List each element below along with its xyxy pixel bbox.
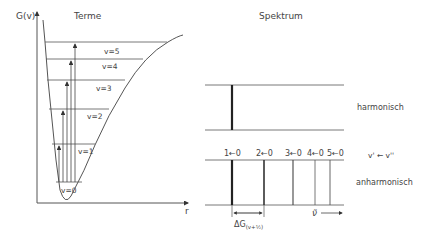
transition-label-2-0: 2←0: [256, 149, 273, 158]
x-axis-label: r: [185, 206, 189, 216]
y-axis-label: G(v): [16, 11, 35, 21]
level-label-v4: v=4: [102, 62, 118, 71]
harmonic-spectrum: [205, 85, 344, 130]
terme-title: Terme: [73, 11, 102, 21]
delta-g-label: ΔG(v+½): [234, 220, 263, 230]
level-label-v5: v=5: [104, 47, 120, 56]
transition-arrows: [59, 44, 75, 182]
anharmonic-spectrum: [205, 160, 344, 205]
level-label-v1: v=1: [78, 147, 94, 156]
level-label-v0: v=0: [61, 186, 77, 195]
spectrum-panel: Spektrum harmonisch 1←0 2←0 3←0 4←0 5←0 …: [205, 11, 413, 230]
spektrum-title: Spektrum: [259, 11, 303, 21]
transition-labels: 1←0 2←0 3←0 4←0 5←0: [224, 149, 344, 158]
level-label-v2: v=2: [87, 112, 103, 121]
level-label-v3: v=3: [96, 84, 112, 93]
harmonic-label: harmonisch: [357, 103, 404, 112]
spacing-indicator: [232, 205, 264, 217]
energy-level-panel: G(v) Terme r v=5 v=4 v=3 v=2 v=1 v=0: [16, 11, 189, 216]
transition-label-1-0: 1←0: [224, 149, 241, 158]
wavenumber-label: ν̃: [312, 208, 317, 218]
vibrational-diagram: G(v) Terme r v=5 v=4 v=3 v=2 v=1 v=0: [0, 0, 433, 240]
transition-notation-label: v' ← v'': [368, 151, 394, 160]
transition-label-3-0: 3←0: [285, 149, 302, 158]
transition-label-4-0: 4←0: [307, 149, 324, 158]
transition-label-5-0: 5←0: [327, 149, 344, 158]
anharmonic-label: anharmonisch: [356, 178, 413, 187]
